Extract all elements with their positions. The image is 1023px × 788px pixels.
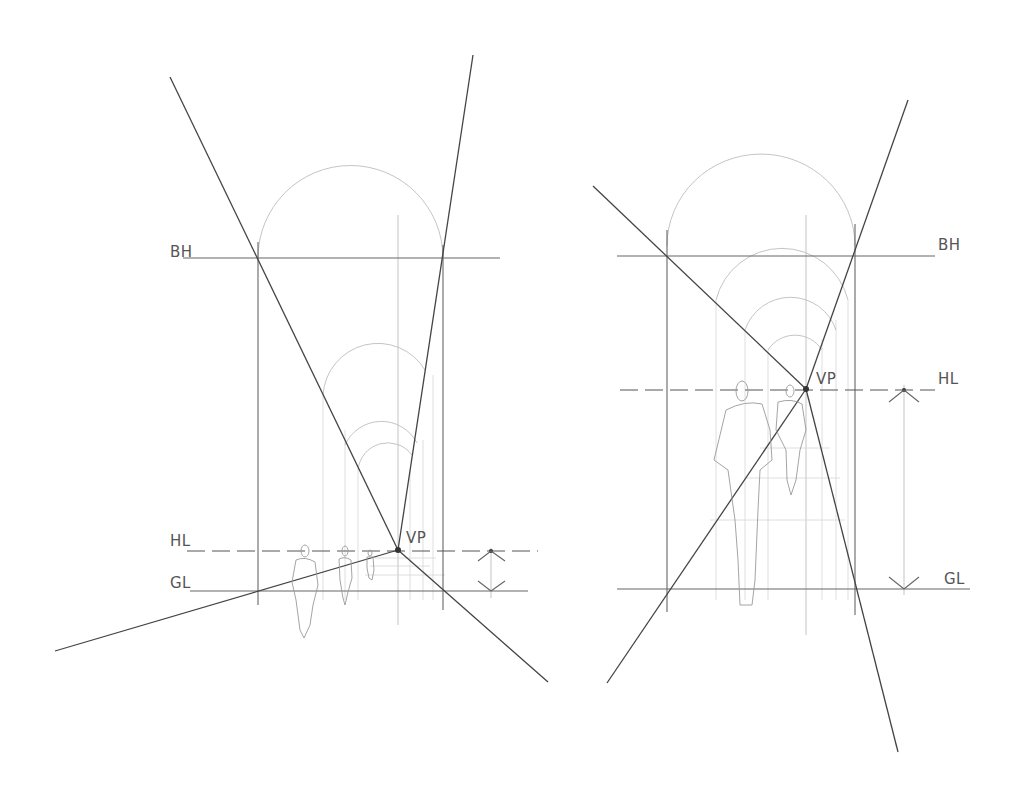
left-ray-lower-right [398,550,548,682]
left-vanishing-point [395,547,401,553]
right-figures [714,381,806,605]
right-bh-label: BH [938,236,961,254]
right-vp-label: VP [816,370,836,388]
left-gl-label: GL [170,574,191,592]
right-ray-lower-left [607,389,806,683]
right-vanishing-point [803,386,809,392]
right-ray-upper-right [806,100,908,389]
right-hl-label: HL [938,370,959,388]
left-guide-lines [323,215,445,625]
left-bh-label: BH [170,243,193,261]
left-arch-4 [358,443,412,470]
left-arch-3 [345,421,417,445]
left-vp-label: VP [406,529,426,547]
left-ray-lower-left [55,550,398,651]
left-hl-label: HL [170,532,191,550]
right-arch-3 [745,297,836,330]
perspective-sketch-canvas: BH HL GL VP [0,0,1023,788]
right-ray-upper-left [593,186,806,389]
left-ray-upper-right [398,55,473,550]
right-gl-label: GL [944,570,965,588]
left-main-arch [258,166,443,258]
right-perspective-diagram: BH HL GL VP [593,100,970,752]
right-main-arch [667,154,855,246]
left-perspective-diagram: BH HL GL VP [55,55,548,682]
left-arch-2 [323,343,425,395]
left-ray-upper-left [170,77,398,550]
right-guide-lines [710,215,848,635]
right-eye-level-marker [889,385,919,595]
right-ray-lower-right [806,389,898,752]
right-arch-4 [768,335,822,350]
